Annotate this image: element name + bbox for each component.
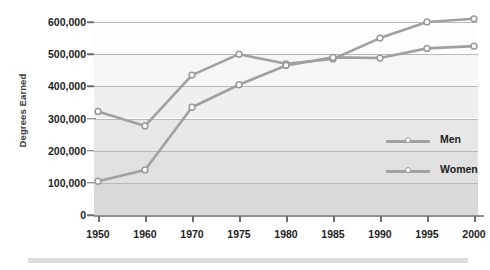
x-axis-tick-label: 2000 xyxy=(462,228,485,240)
x-axis-tick-mark xyxy=(286,216,288,222)
data-point-marker xyxy=(142,167,148,173)
data-point-marker xyxy=(377,55,383,61)
y-axis-tick-label: 0 xyxy=(8,209,86,221)
series-line-men xyxy=(98,19,474,126)
x-axis-tick-mark xyxy=(145,216,147,222)
data-point-marker xyxy=(424,45,430,51)
data-point-marker xyxy=(189,104,195,110)
y-axis-tick-mark xyxy=(87,21,94,23)
x-axis-tick-mark xyxy=(192,216,194,222)
data-point-marker xyxy=(283,63,289,69)
y-axis-tick-labels: 600,000500,000400,000300,000200,000100,0… xyxy=(8,0,86,270)
x-axis-tick-mark xyxy=(427,216,429,222)
x-axis-tick-label: 1985 xyxy=(321,228,344,240)
bottom-decorative-band xyxy=(28,258,468,263)
x-axis-tick-label: 1960 xyxy=(133,228,156,240)
legend-marker-icon xyxy=(405,137,411,143)
x-axis-tick-mark xyxy=(380,216,382,222)
x-axis-line xyxy=(94,215,484,217)
data-point-marker xyxy=(95,178,101,184)
y-axis-tick-label: 500,000 xyxy=(8,48,86,60)
y-axis-tick-mark xyxy=(87,150,94,152)
y-axis-tick-mark xyxy=(87,53,94,55)
legend-label-women: Women xyxy=(440,163,478,175)
chart-figure: Degrees Earned 600,000500,000400,000300,… xyxy=(0,0,490,270)
x-axis-tick-label: 1990 xyxy=(368,228,391,240)
data-point-marker xyxy=(236,82,242,88)
y-axis-tick-label: 200,000 xyxy=(8,145,86,157)
x-axis-tick-mark xyxy=(239,216,241,222)
legend-marker-icon xyxy=(405,167,411,173)
y-axis-tick-label: 600,000 xyxy=(8,16,86,28)
x-axis-tick-mark xyxy=(333,216,335,222)
data-point-marker xyxy=(330,54,336,60)
data-point-marker xyxy=(471,43,477,49)
data-point-marker xyxy=(471,16,477,22)
y-axis-tick-label: 300,000 xyxy=(8,113,86,125)
y-axis-tick-label: 100,000 xyxy=(8,177,86,189)
y-axis-tick-mark xyxy=(87,182,94,184)
y-axis-tick-mark xyxy=(87,86,94,88)
data-point-marker xyxy=(424,19,430,25)
x-axis-tick-mark xyxy=(98,216,100,222)
series-lines xyxy=(94,22,478,215)
data-point-marker xyxy=(236,51,242,57)
y-axis-tick-mark xyxy=(87,214,94,216)
legend-label-men: Men xyxy=(440,133,461,145)
y-axis-tick-label: 400,000 xyxy=(8,80,86,92)
x-axis-tick-label: 1980 xyxy=(274,228,297,240)
data-point-marker xyxy=(142,123,148,129)
y-axis-tick-mark xyxy=(87,118,94,120)
data-point-marker xyxy=(189,72,195,78)
data-point-marker xyxy=(377,35,383,41)
data-point-marker xyxy=(95,109,101,115)
x-axis-tick-mark xyxy=(474,216,476,222)
x-axis-tick-label: 1995 xyxy=(415,228,438,240)
plot-area xyxy=(94,22,478,215)
x-axis-tick-label: 1950 xyxy=(86,228,109,240)
x-axis-tick-label: 1975 xyxy=(227,228,250,240)
x-axis-tick-label: 1970 xyxy=(180,228,203,240)
